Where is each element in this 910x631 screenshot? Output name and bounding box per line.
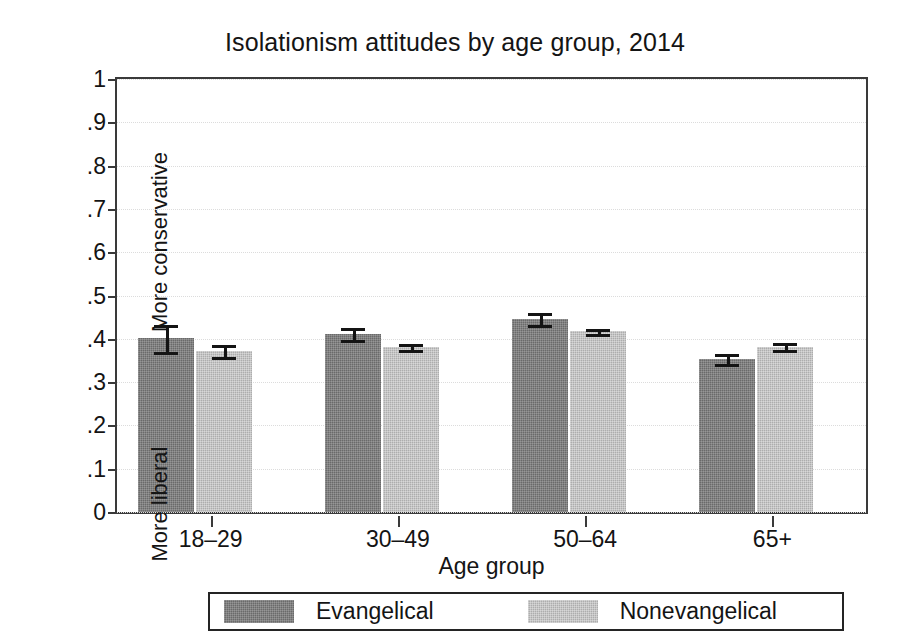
plot-area: More conservative More liberal bbox=[115, 77, 868, 514]
y-axis-tick-label: .7 bbox=[87, 195, 106, 222]
legend-item-nonevangelical: Nonevangelical bbox=[528, 598, 777, 625]
gridline bbox=[117, 339, 866, 340]
legend-swatch-evangelical bbox=[224, 600, 294, 623]
y-axis-tick bbox=[108, 512, 117, 514]
y-axis-tick bbox=[108, 166, 117, 168]
error-bar-cap-lower bbox=[715, 364, 739, 367]
y-axis-tick-label: .4 bbox=[87, 325, 106, 352]
gridline bbox=[117, 79, 866, 80]
y-axis-tick bbox=[108, 79, 117, 81]
gridline bbox=[117, 296, 866, 297]
y-axis-tick bbox=[108, 425, 117, 427]
bar-nonevangelical-1 bbox=[383, 347, 439, 512]
y-axis-tick-label: .8 bbox=[87, 152, 106, 179]
x-axis-tick-label: 65+ bbox=[753, 526, 792, 553]
y-axis-tick bbox=[108, 122, 117, 124]
legend-label-nonevangelical: Nonevangelical bbox=[620, 598, 777, 625]
error-bar-cap-upper bbox=[773, 343, 797, 346]
gridline bbox=[117, 512, 866, 513]
y-axis-tick bbox=[108, 252, 117, 254]
error-bar-cap-lower bbox=[212, 357, 236, 360]
gridline bbox=[117, 166, 866, 167]
y-axis-tick bbox=[108, 339, 117, 341]
legend: Evangelical Nonevangelical bbox=[208, 592, 844, 631]
y-axis-caption-high: More conservative bbox=[147, 137, 173, 347]
error-bar-cap-upper bbox=[212, 345, 236, 348]
plot-inner bbox=[117, 79, 866, 512]
bar-evangelical-1 bbox=[325, 334, 381, 512]
error-bar-cap-lower bbox=[341, 340, 365, 343]
error-bar-cap-lower bbox=[528, 325, 552, 328]
legend-item-evangelical: Evangelical bbox=[224, 598, 434, 625]
x-axis-tick-label: 50–64 bbox=[553, 526, 617, 553]
y-axis-tick-label: .6 bbox=[87, 239, 106, 266]
error-bar-cap-upper bbox=[399, 344, 423, 347]
bar-evangelical-2 bbox=[512, 319, 568, 512]
y-axis-tick bbox=[108, 296, 117, 298]
x-axis-tick-label: 18–29 bbox=[179, 526, 243, 553]
y-axis-tick-label: .2 bbox=[87, 412, 106, 439]
y-axis-tick bbox=[108, 209, 117, 211]
error-bar-cap-upper bbox=[586, 329, 610, 332]
legend-label-evangelical: Evangelical bbox=[316, 598, 434, 625]
error-bar-cap-lower bbox=[773, 350, 797, 353]
x-axis-tick-label: 30–49 bbox=[366, 526, 430, 553]
error-bar-cap-lower bbox=[586, 334, 610, 337]
y-axis-tick-labels: 0.1.2.3.4.5.6.7.8.91 bbox=[58, 77, 106, 514]
y-axis-tick-label: .5 bbox=[87, 282, 106, 309]
y-axis-tick-label: .9 bbox=[87, 109, 106, 136]
error-bar-cap-lower bbox=[154, 352, 178, 355]
error-bar-cap-upper bbox=[341, 328, 365, 331]
page-title: Isolationism attitudes by age group, 201… bbox=[0, 28, 910, 57]
y-axis-tick-label: 0 bbox=[93, 499, 106, 526]
bar-nonevangelical-0 bbox=[196, 351, 252, 512]
y-axis-tick-label: .1 bbox=[87, 455, 106, 482]
y-axis-tick bbox=[108, 469, 117, 471]
legend-swatch-nonevangelical bbox=[528, 600, 598, 623]
bar-nonevangelical-3 bbox=[757, 347, 813, 512]
bar-evangelical-3 bbox=[699, 359, 755, 512]
gridline bbox=[117, 122, 866, 123]
y-axis-tick-label: .3 bbox=[87, 369, 106, 396]
x-axis-tick-labels: 18–2930–4950–6465+ bbox=[115, 526, 868, 556]
y-axis-tick-label: 1 bbox=[93, 66, 106, 93]
error-bar-cap-lower bbox=[399, 350, 423, 353]
x-axis-title: Age group bbox=[115, 553, 868, 580]
error-bar-cap-upper bbox=[528, 313, 552, 316]
error-bar-cap-upper bbox=[715, 354, 739, 357]
bar-nonevangelical-2 bbox=[570, 331, 626, 512]
gridline bbox=[117, 252, 866, 253]
y-axis-tick bbox=[108, 382, 117, 384]
gridline bbox=[117, 209, 866, 210]
